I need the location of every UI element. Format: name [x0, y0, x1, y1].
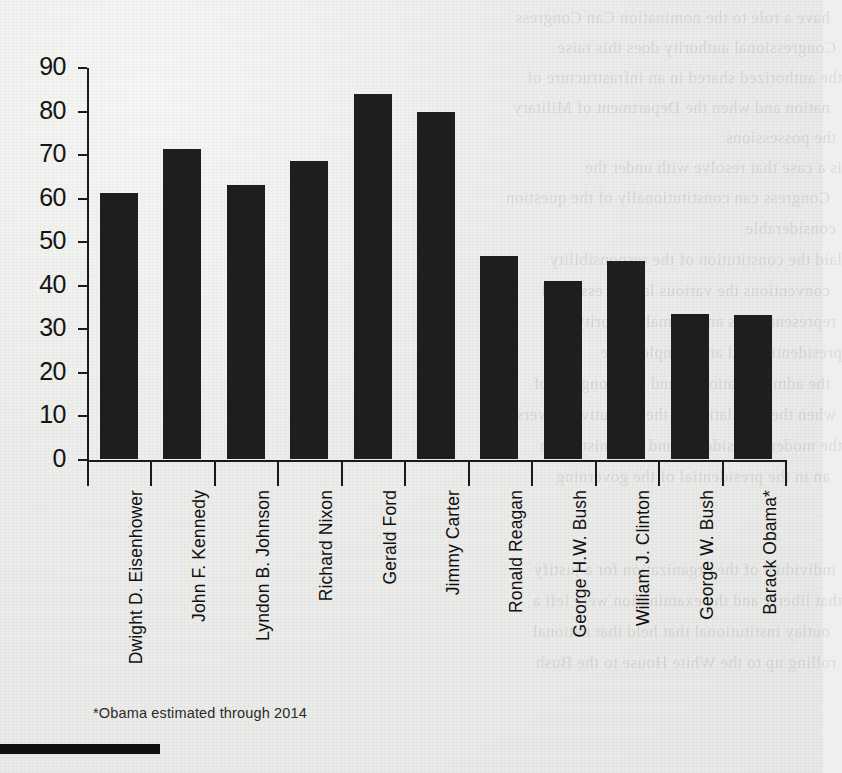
- x-axis-tick: [341, 460, 343, 486]
- bar: [163, 149, 201, 459]
- x-axis-tick: [722, 460, 724, 486]
- bar: [354, 94, 392, 459]
- y-axis-tick-label: 30: [39, 313, 66, 342]
- x-axis-tick: [214, 460, 216, 486]
- x-axis-category-label: William J. Clinton: [633, 490, 654, 626]
- y-axis-tick: 70: [78, 154, 87, 156]
- bar: [290, 161, 328, 459]
- x-axis-tick: [87, 460, 89, 486]
- y-axis-tick-label: 10: [39, 400, 66, 429]
- y-axis-tick: 80: [78, 111, 87, 113]
- y-axis-tick-label: 70: [39, 139, 66, 168]
- bar: [607, 261, 645, 459]
- x-axis-category-label: George H.W. Bush: [570, 490, 591, 638]
- x-axis-category-label: Gerald Ford: [380, 490, 401, 584]
- plot-area: 0102030405060708090 Dwight D. Eisenhower…: [87, 68, 785, 461]
- y-axis-tick-label: 60: [39, 183, 66, 212]
- y-axis-tick-label: 20: [39, 357, 66, 386]
- x-axis-tick: [404, 460, 406, 486]
- x-axis-category-label: John F. Kennedy: [189, 490, 210, 622]
- x-axis-category-label: Dwight D. Eisenhower: [126, 490, 147, 664]
- y-axis-tick: 90: [78, 67, 87, 69]
- y-axis-tick: 60: [78, 198, 87, 200]
- y-axis-tick-label: 50: [39, 226, 66, 255]
- y-axis-tick: 30: [78, 328, 87, 330]
- bar: [227, 185, 265, 459]
- x-axis-category-label: Jimmy Carter: [443, 490, 464, 595]
- x-axis-line: [87, 460, 786, 462]
- x-axis-tick: [277, 460, 279, 486]
- bar: [671, 314, 709, 459]
- y-axis-tick: 40: [78, 285, 87, 287]
- x-axis-tick: [150, 460, 152, 486]
- x-axis-category-label: Ronald Reagan: [506, 490, 527, 613]
- y-axis-tick: 20: [78, 372, 87, 374]
- x-axis-tick: [658, 460, 660, 486]
- x-axis-category-label: Barack Obama*: [760, 490, 781, 615]
- x-axis-category-label: George W. Bush: [697, 490, 718, 620]
- page-rule-bar: [0, 744, 160, 754]
- bar: [480, 256, 518, 459]
- x-axis-tick: [531, 460, 533, 486]
- x-axis-category-label: Richard Nixon: [316, 490, 337, 601]
- x-axis-tick: [595, 460, 597, 486]
- y-axis-tick: 10: [78, 415, 87, 417]
- x-axis-tick: [468, 460, 470, 486]
- y-axis-tick: 0: [78, 459, 87, 461]
- x-axis-tick: [785, 460, 787, 486]
- y-axis-tick-label: 40: [39, 270, 66, 299]
- y-axis-tick: 50: [78, 241, 87, 243]
- chart-footnote: *Obama estimated through 2014: [93, 705, 307, 721]
- y-axis-tick-label: 90: [39, 52, 66, 81]
- x-axis-category-label: Lyndon B. Johnson: [253, 490, 274, 641]
- bar: [734, 315, 772, 459]
- bar: [417, 112, 455, 459]
- y-axis-line: [87, 68, 89, 462]
- bar: [100, 193, 138, 459]
- bar: [544, 281, 582, 459]
- y-axis-tick-label: 0: [53, 444, 66, 473]
- y-axis-tick-label: 80: [39, 95, 66, 124]
